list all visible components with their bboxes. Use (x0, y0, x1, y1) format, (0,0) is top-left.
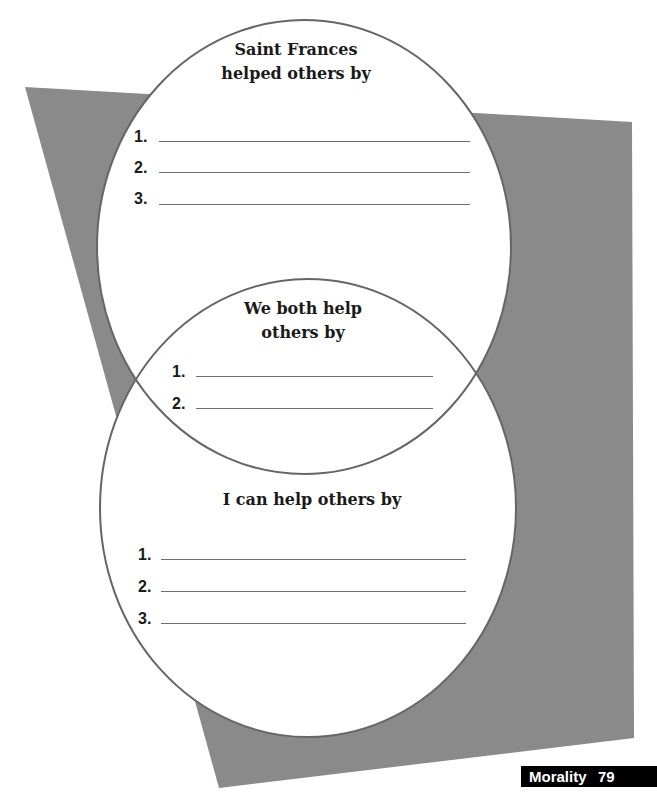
bottom-item-3-number: 3. (138, 610, 151, 628)
footer-section-label: Morality (529, 766, 587, 787)
bottom-item-2-answer-line[interactable] (161, 591, 466, 592)
top-item-1-number: 1. (134, 128, 147, 146)
overlap-title: We both help others by (213, 297, 393, 345)
top-item-2-answer-line[interactable] (159, 172, 470, 173)
overlap-title-line1: We both help (213, 297, 393, 321)
worksheet-page: Saint Frances helped others by 1. 2. 3. … (0, 0, 657, 795)
overlap-item-1-number: 1. (172, 363, 185, 381)
bottom-item-3-answer-line[interactable] (161, 623, 466, 624)
top-item-3-answer-line[interactable] (159, 204, 470, 205)
bottom-item-1-number: 1. (138, 546, 151, 564)
top-circle-title-line1: Saint Frances (196, 38, 396, 62)
top-circle-title-line2: helped others by (196, 62, 396, 86)
bottom-circle-title: I can help others by (207, 488, 417, 512)
page-footer: Morality 79 (521, 766, 657, 787)
overlap-item-1-answer-line[interactable] (196, 376, 433, 377)
top-item-2-number: 2. (134, 159, 147, 177)
overlap-item-2-answer-line[interactable] (196, 408, 433, 409)
venn-diagram-graphic (0, 0, 657, 795)
footer-page-number: 79 (598, 766, 615, 787)
overlap-item-2-number: 2. (172, 395, 185, 413)
top-item-1-answer-line[interactable] (159, 141, 470, 142)
bottom-item-2-number: 2. (138, 578, 151, 596)
bottom-item-1-answer-line[interactable] (161, 559, 466, 560)
top-circle-title: Saint Frances helped others by (196, 38, 396, 86)
top-item-3-number: 3. (134, 190, 147, 208)
overlap-title-line2: others by (213, 321, 393, 345)
